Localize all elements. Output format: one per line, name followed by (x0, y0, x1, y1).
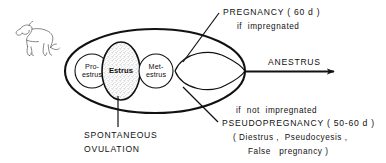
figure-canvas: Pro- estrus Estrus Met- estrus PREGNANCY… (0, 0, 386, 163)
stage-label-metestrus-line2: estrus (146, 70, 166, 79)
anestrus-label: ANESTRUS (268, 58, 321, 67)
stage-label-estrus: Estrus (109, 67, 133, 75)
ovulation-label-line2: OVULATION (84, 145, 140, 154)
pseudopregnancy-synonyms-line1: ( Diestrus , Pseudocyesis , (233, 134, 348, 142)
stage-label-proestrus-line2: estrus (82, 70, 102, 79)
pregnancy-title: PREGNANCY ( 60 d ) (223, 8, 320, 17)
stage-label-metestrus: Met- estrus (146, 63, 166, 80)
stage-label-estrus-line1: Estrus (109, 66, 133, 75)
pregnancy-leader-line (183, 13, 219, 62)
stage-label-proestrus: Pro- estrus (82, 63, 102, 80)
ovulation-label-line1: SPONTANEOUS (84, 131, 158, 140)
pseudopregnancy-leader-line (183, 87, 218, 122)
pseudopregnancy-title: PSEUDOPREGNANCY ( 50-60 d ) (222, 119, 375, 128)
dog-icon (16, 21, 59, 55)
pregnancy-condition: if impregnated (237, 23, 299, 31)
pseudopregnancy-synonyms-line2: False pregnancy ) (248, 148, 329, 156)
pseudopregnancy-condition: if not impregnated (236, 107, 317, 115)
